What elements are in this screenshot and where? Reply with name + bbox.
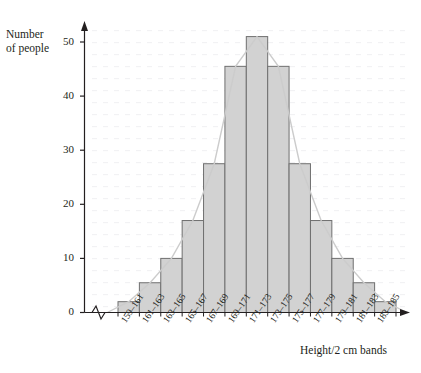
histogram-bar (204, 164, 225, 313)
histogram-bar (246, 37, 267, 313)
x-axis-arrowhead (400, 309, 410, 316)
y-tick-label: 10 (52, 251, 74, 263)
chart-figure: Number of people Height/2 cm bands 01020… (0, 0, 421, 373)
y-tick-label: 40 (52, 89, 74, 101)
histogram-bar (289, 164, 310, 313)
y-tick-label: 30 (52, 143, 74, 155)
y-tick-marks (80, 42, 85, 313)
y-tick-label: 0 (52, 305, 74, 317)
y-tick-label: 50 (52, 35, 74, 47)
y-axis-arrowhead (81, 21, 88, 31)
y-tick-label: 20 (52, 197, 74, 209)
